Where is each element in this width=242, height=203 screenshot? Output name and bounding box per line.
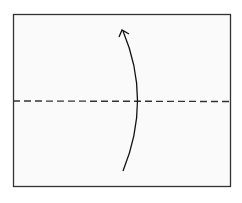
origami-diagram — [0, 0, 242, 203]
